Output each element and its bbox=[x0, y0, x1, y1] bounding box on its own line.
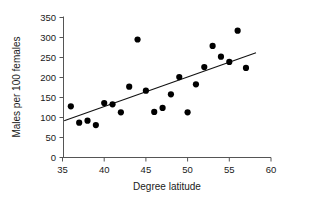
data-point bbox=[68, 103, 74, 109]
data-point bbox=[143, 88, 149, 94]
data-point bbox=[226, 59, 232, 65]
chart-canvas: 350 300 250 200 150 100 50 0 35 40 45 50… bbox=[0, 0, 309, 201]
x-tick-label-60: 60 bbox=[266, 164, 277, 175]
x-tick-label-40: 40 bbox=[99, 164, 110, 175]
data-point bbox=[185, 109, 191, 115]
data-point bbox=[243, 65, 249, 71]
x-tick-label-50: 50 bbox=[182, 164, 193, 175]
data-point bbox=[101, 100, 107, 106]
data-point bbox=[235, 28, 241, 34]
data-point bbox=[201, 64, 207, 70]
data-points-group bbox=[68, 28, 249, 129]
x-axis-title: Degree latitude bbox=[133, 181, 201, 192]
data-point bbox=[193, 81, 199, 87]
y-axis-title: Males per 100 females bbox=[11, 36, 22, 137]
y-axis-ticks bbox=[60, 18, 64, 158]
y-tick-label-150: 150 bbox=[40, 92, 56, 103]
y-tick-label-200: 200 bbox=[40, 72, 56, 83]
data-point bbox=[126, 84, 132, 90]
y-tick-label-250: 250 bbox=[40, 52, 56, 63]
x-tick-label-45: 45 bbox=[141, 164, 152, 175]
y-tick-label-300: 300 bbox=[40, 32, 56, 43]
data-point bbox=[76, 120, 82, 126]
data-point bbox=[84, 118, 90, 124]
data-point bbox=[210, 43, 216, 49]
data-point bbox=[218, 54, 224, 60]
data-point bbox=[109, 101, 115, 107]
data-point bbox=[134, 36, 140, 42]
scatter-chart: 350 300 250 200 150 100 50 0 35 40 45 50… bbox=[0, 0, 309, 201]
x-tick-label-35: 35 bbox=[57, 164, 68, 175]
data-point bbox=[159, 105, 165, 111]
y-tick-label-350: 350 bbox=[40, 12, 56, 23]
data-point bbox=[118, 109, 124, 115]
x-axis-ticks bbox=[63, 158, 272, 162]
y-tick-label-50: 50 bbox=[45, 132, 56, 143]
data-point bbox=[176, 74, 182, 80]
y-tick-label-100: 100 bbox=[40, 112, 56, 123]
data-point bbox=[151, 109, 157, 115]
data-point bbox=[168, 91, 174, 97]
x-tick-label-55: 55 bbox=[224, 164, 235, 175]
data-point bbox=[93, 122, 99, 128]
y-tick-label-0: 0 bbox=[51, 152, 56, 163]
